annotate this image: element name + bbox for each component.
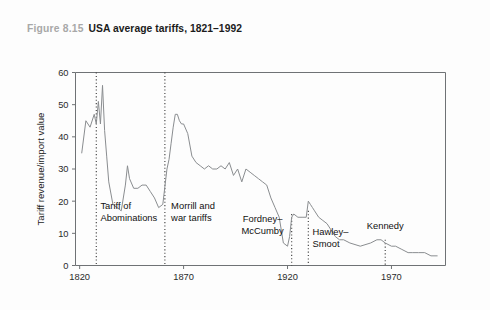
y-tick-label: 20 [58, 197, 68, 207]
figure-container: Figure 8.15USA average tariffs, 1821–199… [0, 0, 490, 310]
y-tick-label: 40 [58, 132, 68, 142]
y-tick-label: 60 [58, 68, 68, 78]
y-axis-title-text: Tariff revenue/import value [35, 113, 46, 226]
x-tick-label: 1920 [277, 272, 298, 282]
y-tick-label: 10 [58, 229, 68, 239]
annotation-label-morrill-and-war-tariffs: Morrill and [171, 200, 215, 211]
annotation-label-kennedy: Kennedy [367, 220, 404, 231]
y-tick-label: 50 [58, 100, 68, 110]
axis-frame-top-right [76, 73, 446, 266]
x-axis-ticks: 1820187019201970 [69, 266, 401, 283]
annotation-label-hawley-smoot: Smoot [312, 238, 339, 249]
y-axis-ticks: 0102030405060 [58, 68, 75, 271]
x-tick-label: 1970 [381, 272, 402, 282]
tariff-line-chart: 0102030405060 1820187019201970 Tariff re… [0, 0, 490, 310]
x-tick-label: 1820 [69, 272, 90, 282]
annotation-label-tariff-of-abominations: Tariff of [100, 200, 131, 211]
chart-axes [76, 73, 446, 266]
annotation-label-fordney-mccumby: McCumby [241, 225, 284, 236]
annotation-label-tariff-of-abominations: Abominations [100, 212, 157, 223]
x-tick-label: 1870 [173, 272, 194, 282]
y-tick-label: 0 [63, 261, 68, 271]
chart-plot-area: 0102030405060 1820187019201970 Tariff re… [0, 0, 490, 310]
annotation-labels: Tariff ofAbominationsMorrill andwar tari… [100, 200, 404, 248]
annotation-label-morrill-and-war-tariffs: war tariffs [170, 212, 212, 223]
y-axis-title: Tariff revenue/import value [35, 113, 46, 226]
axis-frame-left-bottom [76, 73, 446, 266]
annotation-label-hawley-smoot: Hawley– [312, 226, 349, 237]
annotation-label-fordney-mccumby: Fordney– [243, 213, 283, 224]
y-tick-label: 30 [58, 164, 68, 174]
